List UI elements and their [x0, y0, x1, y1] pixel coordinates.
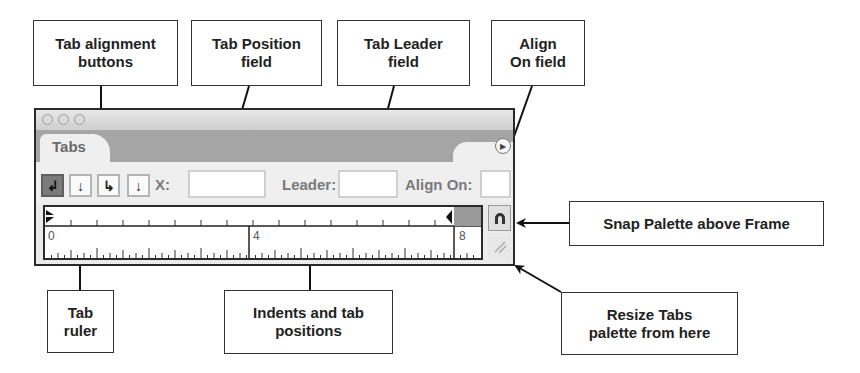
snap-palette-button[interactable] — [488, 205, 511, 231]
magnet-icon — [493, 211, 507, 225]
callout-align-on: Align On field — [491, 20, 585, 86]
callout-tab-position: Tab Position field — [191, 20, 322, 86]
callout-indents: Indents and tab positions — [224, 290, 393, 354]
x-label: X: — [155, 176, 170, 193]
tab-leader-field[interactable] — [338, 170, 398, 198]
ruler-graphic — [45, 207, 481, 258]
callout-snap: Snap Palette above Frame — [569, 201, 824, 246]
palette-titlebar[interactable] — [36, 110, 513, 130]
center-justified-tab-button[interactable]: ↓ — [69, 174, 92, 197]
left-justified-tab-button[interactable]: ↲ — [41, 174, 64, 197]
ruler-side-controls — [488, 205, 511, 261]
center-tab-icon: ↓ — [77, 178, 84, 194]
align-on-field[interactable] — [480, 170, 511, 198]
flyout-menu-icon[interactable]: ▶ — [495, 138, 511, 154]
tab-position-field[interactable] — [188, 170, 266, 198]
tab-tabs[interactable]: Tabs — [40, 134, 110, 162]
ruler-label-8: 8 — [459, 229, 466, 243]
right-justified-tab-button[interactable]: ↳ — [97, 174, 120, 197]
align-on-label: Align On: — [405, 176, 473, 193]
close-button[interactable] — [42, 114, 53, 125]
ruler-label-4: 4 — [253, 229, 260, 243]
leader-label: Leader: — [282, 176, 336, 193]
callout-resize: Resize Tabs palette from here — [561, 292, 738, 355]
decimal-tab-button[interactable]: ↓ — [127, 174, 150, 197]
ruler-label-0: 0 — [48, 229, 55, 243]
tabs-palette: Tabs ▶ ↲ ↓ ↳ ↓ X: Leader: Align On: — [34, 108, 515, 266]
tab-ruler[interactable]: 0 4 8 — [43, 205, 483, 260]
zoom-button[interactable] — [74, 114, 85, 125]
left-tab-icon: ↲ — [47, 178, 59, 194]
minimize-button[interactable] — [58, 114, 69, 125]
right-tab-icon: ↳ — [103, 178, 115, 194]
callout-tab-alignment: Tab alignment buttons — [33, 20, 178, 86]
resize-grip-icon — [492, 239, 508, 255]
callout-tab-leader: Tab Leader field — [337, 20, 470, 86]
callout-tab-ruler: Tab ruler — [47, 290, 114, 353]
decimal-tab-icon: ↓ — [135, 178, 142, 194]
resize-grip[interactable] — [488, 233, 511, 260]
tab-strip: Tabs ▶ — [36, 130, 513, 162]
tab-controls: ↲ ↓ ↳ ↓ X: Leader: Align On: — [36, 162, 513, 202]
